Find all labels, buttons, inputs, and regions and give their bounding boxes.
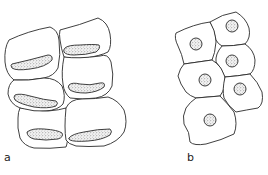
panel-a-label: a: [4, 152, 11, 163]
nucleus-b5: [234, 83, 246, 95]
panel-b: [175, 12, 262, 145]
cell-a1: [5, 27, 60, 80]
nucleus-b2: [226, 20, 238, 32]
nucleus-b6: [204, 114, 216, 126]
panel-a: [5, 18, 126, 148]
cell-a5: [18, 108, 69, 148]
nucleus-b1: [190, 38, 202, 50]
cell-diagram: [0, 0, 268, 175]
nucleus-b4: [226, 55, 238, 67]
nucleus-b3: [199, 74, 211, 86]
panel-b-label: b: [187, 152, 194, 163]
nucleus-a5: [27, 129, 63, 140]
